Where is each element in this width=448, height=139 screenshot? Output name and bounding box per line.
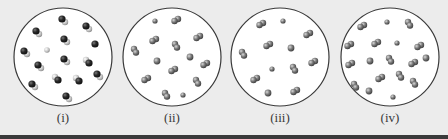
atom xyxy=(384,19,389,24)
atom xyxy=(357,24,363,30)
atom xyxy=(241,52,247,58)
atom xyxy=(371,41,377,47)
atom xyxy=(171,18,177,24)
atom xyxy=(54,76,61,83)
atom xyxy=(408,61,414,67)
atom xyxy=(180,92,185,97)
atom xyxy=(93,70,100,77)
atom xyxy=(195,80,201,86)
atom xyxy=(290,89,296,95)
atom xyxy=(152,18,157,23)
atom xyxy=(44,47,50,53)
atom xyxy=(390,94,395,99)
atom xyxy=(32,27,39,34)
atom xyxy=(288,45,295,52)
atom xyxy=(366,88,373,95)
atom xyxy=(398,74,404,80)
atom xyxy=(345,62,351,68)
atom xyxy=(168,68,174,74)
atom xyxy=(141,77,147,83)
atom xyxy=(149,38,155,44)
molecule-icon xyxy=(91,40,98,47)
atom xyxy=(193,35,199,41)
atom xyxy=(280,18,285,23)
molecule-icon xyxy=(366,88,373,95)
panel-label: (iii) xyxy=(250,110,310,126)
atom xyxy=(308,60,314,66)
atom xyxy=(91,40,98,47)
atom xyxy=(174,44,180,50)
panel-label: (ii) xyxy=(142,110,202,126)
molecule-icon xyxy=(367,58,374,65)
atom xyxy=(303,32,309,38)
atom xyxy=(353,84,359,90)
molecule-icon xyxy=(187,54,194,61)
panel-1 xyxy=(14,8,112,106)
atom xyxy=(263,43,269,49)
atom xyxy=(154,58,161,65)
panel-3 xyxy=(231,8,329,106)
atom xyxy=(423,55,430,62)
molecule-icon xyxy=(44,47,50,53)
atom xyxy=(60,55,67,62)
atom xyxy=(394,40,399,45)
atom xyxy=(265,90,272,97)
molecule-icon xyxy=(394,40,399,45)
panel-label: (iv) xyxy=(360,110,420,126)
atom xyxy=(407,22,413,28)
molecule-icon xyxy=(265,90,272,97)
molecule-icon xyxy=(180,92,185,97)
atom xyxy=(28,80,35,87)
atom xyxy=(164,93,170,99)
atom xyxy=(34,61,41,68)
atom xyxy=(187,54,194,61)
molecule-icon xyxy=(269,66,274,71)
atom xyxy=(58,15,65,22)
atom xyxy=(292,67,298,73)
atom xyxy=(250,77,256,83)
atom xyxy=(375,76,381,82)
molecule-icon xyxy=(280,18,285,23)
atom xyxy=(256,22,262,28)
molecule-diagram: (i)(ii)(iii)(iv) xyxy=(0,0,448,139)
atom xyxy=(60,35,67,42)
molecule-icon xyxy=(384,19,389,24)
panel-label: (i) xyxy=(33,110,93,126)
atom xyxy=(200,62,206,68)
molecule-icon xyxy=(390,94,395,99)
molecule-icon xyxy=(152,18,157,23)
panel-2 xyxy=(123,8,221,106)
molecule-icon xyxy=(288,45,295,52)
atom xyxy=(412,81,418,87)
atom xyxy=(62,92,69,99)
atom xyxy=(82,22,89,29)
atom xyxy=(75,77,82,84)
atom xyxy=(133,49,139,55)
panel-4 xyxy=(341,8,439,106)
atom xyxy=(20,47,27,54)
atom xyxy=(367,58,374,65)
molecule-icon xyxy=(423,55,430,62)
molecule-icon xyxy=(154,58,161,65)
bottom-rule xyxy=(0,135,448,139)
atom xyxy=(344,43,350,49)
atom xyxy=(414,44,420,50)
atom xyxy=(388,58,394,64)
atom xyxy=(269,66,274,71)
atom xyxy=(85,59,92,66)
